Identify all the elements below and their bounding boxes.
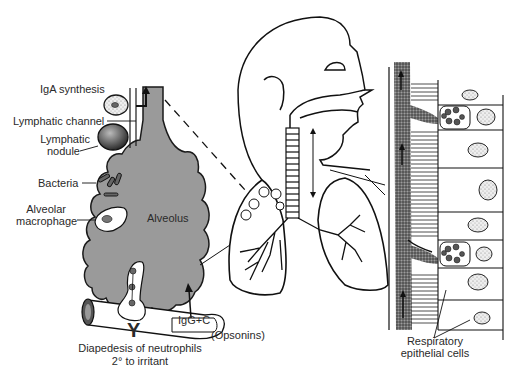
lungs [229,178,388,295]
respiratory-epithelium [389,62,503,340]
label-respiratory-epithelial-2: epithelial cells [385,347,485,359]
label-alveolar-macrophage-2: macrophage [16,215,77,227]
label-lymphatic-nodule-1: Lymphatic [30,133,90,145]
label-iga-synthesis: IgA synthesis [40,83,105,95]
label-opsonins: (Opsonins) [211,329,265,341]
label-respiratory-epithelial-1: Respiratory [395,335,475,347]
iga-plasma-cell [104,95,128,115]
label-diapedesis-1: Diapedesis of neutrophils [70,342,210,354]
label-alveolar-macrophage-1: Alveolar [10,203,66,215]
label-diapedesis-2: 2° to irritant [70,355,210,367]
label-lymphatic-nodule-2: nodule [30,145,80,157]
head-profile [238,17,372,180]
label-alveolus: Alveolus [147,212,189,224]
lymphatic-nodule [98,124,128,150]
label-lymphatic-channel: Lymphatic channel [13,115,104,127]
label-bacteria: Bacteria [38,177,78,189]
trachea [286,128,313,218]
lung-to-epithelium-line [365,175,385,195]
label-igg-c: IgG+C [178,314,210,326]
antibody-icon: Y [127,320,140,340]
